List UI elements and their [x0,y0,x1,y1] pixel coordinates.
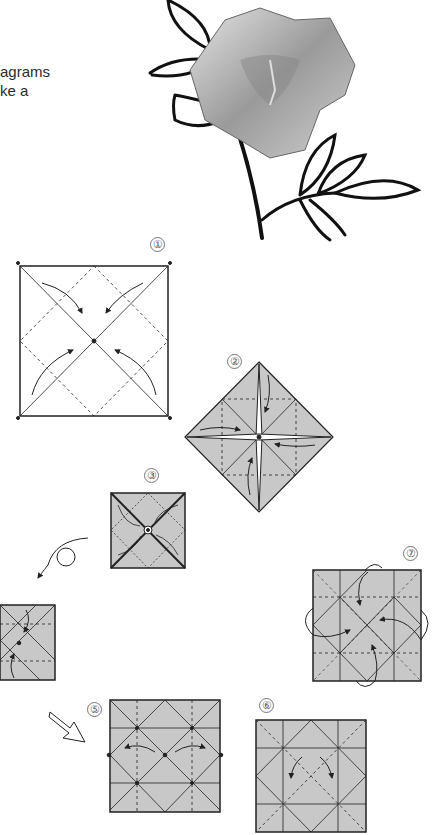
step-7-diagram [306,564,429,686]
turn-over-arrow [38,538,88,578]
step-4-diagram [0,605,55,680]
step-2-diagram [185,362,333,512]
hollow-arrow [49,712,85,742]
step-1-diagram [17,262,172,420]
step-6-diagram [256,720,366,832]
diagrams [0,0,433,835]
step-5-diagram [107,700,223,812]
step-3-diagram [111,493,185,568]
